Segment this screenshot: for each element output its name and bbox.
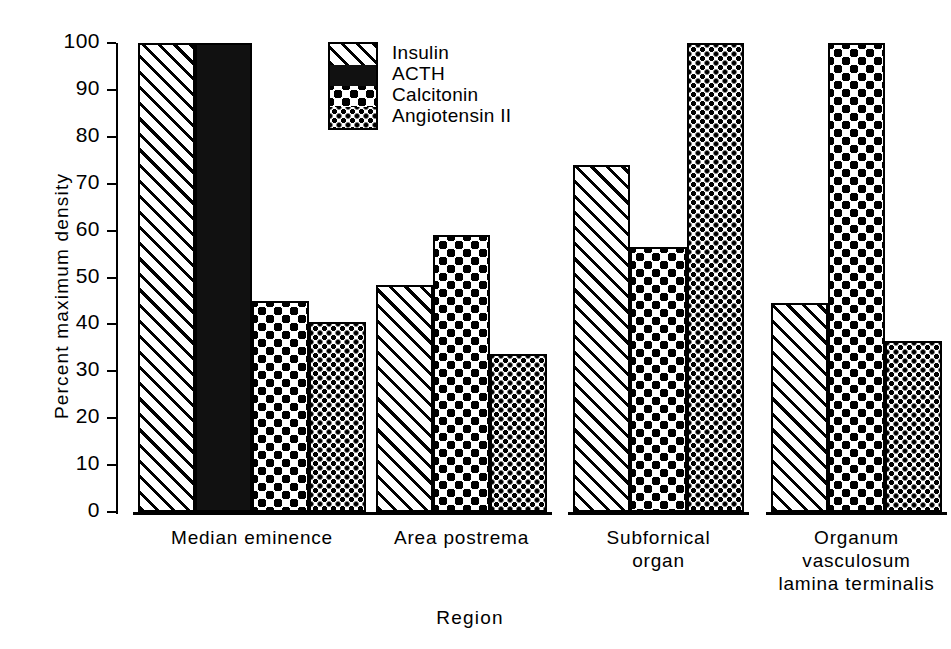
legend-label-angiotensin-ii: Angiotensin II [392,105,511,126]
bar-insulin [376,285,433,512]
y-axis-tick [107,511,116,513]
y-axis-tick-label: 0 [28,499,100,520]
legend-label-acth: ACTH [392,63,511,84]
group-baseline [133,512,371,515]
bar-angiotensin-ii [309,322,366,512]
bar-calcitonin [630,247,687,512]
bar-angiotensin-ii [885,341,942,512]
plot-area [116,43,922,512]
bar-calcitonin [828,43,885,512]
category-label-line: lamina terminalis [727,572,951,595]
bar-group-3 [573,43,744,512]
bar-group-4 [771,43,942,512]
y-axis-tick [107,464,116,466]
group-baseline [371,512,552,515]
y-axis-tick [107,89,116,91]
group-baseline [568,512,749,515]
legend-swatch-insulin [330,44,376,65]
y-axis-tick-label: 90 [28,77,100,98]
y-axis-tick-label: 100 [28,30,100,51]
bar-insulin [771,303,828,512]
legend-label-column: InsulinACTHCalcitoninAngiotensin II [392,42,511,126]
y-axis-tick [107,277,116,279]
bar-angiotensin-ii [490,354,547,512]
y-axis-tick-label: 10 [28,452,100,473]
y-axis-tick-label: 40 [28,311,100,332]
bar-calcitonin [433,235,490,512]
y-axis-tick-label: 50 [28,265,100,286]
category-label-line: vasculosum [727,549,951,572]
y-axis-tick [107,183,116,185]
legend-label-calcitonin: Calcitonin [392,84,511,105]
y-axis-tick-label: 70 [28,171,100,192]
legend-swatch-calcitonin [330,86,376,107]
legend-swatch-acth [330,65,376,86]
legend: InsulinACTHCalcitoninAngiotensin II [328,42,511,130]
y-axis-tick-label: 20 [28,405,100,426]
legend-swatch-column [328,42,378,130]
group-baseline [766,512,947,515]
y-axis-tick [107,230,116,232]
y-axis-tick [107,370,116,372]
bar-angiotensin-ii [687,43,744,512]
y-axis-tick [107,42,116,44]
bar-acth [195,43,252,512]
category-label-line: Organum [727,526,951,549]
legend-label-insulin: Insulin [392,42,511,63]
y-axis-tick [107,417,116,419]
bar-insulin [573,165,630,512]
y-axis-tick-label: 80 [28,124,100,145]
bar-insulin [138,43,195,512]
bar-calcitonin [252,301,309,512]
y-axis-tick-label: 30 [28,358,100,379]
y-axis-tick [107,136,116,138]
legend-swatch-angiotensin-ii [330,107,376,128]
x-axis-title: Region [0,607,940,629]
y-axis-tick [107,323,116,325]
y-axis-tick-label: 60 [28,218,100,239]
category-label-4: Organumvasculosumlamina terminalis [727,526,951,596]
